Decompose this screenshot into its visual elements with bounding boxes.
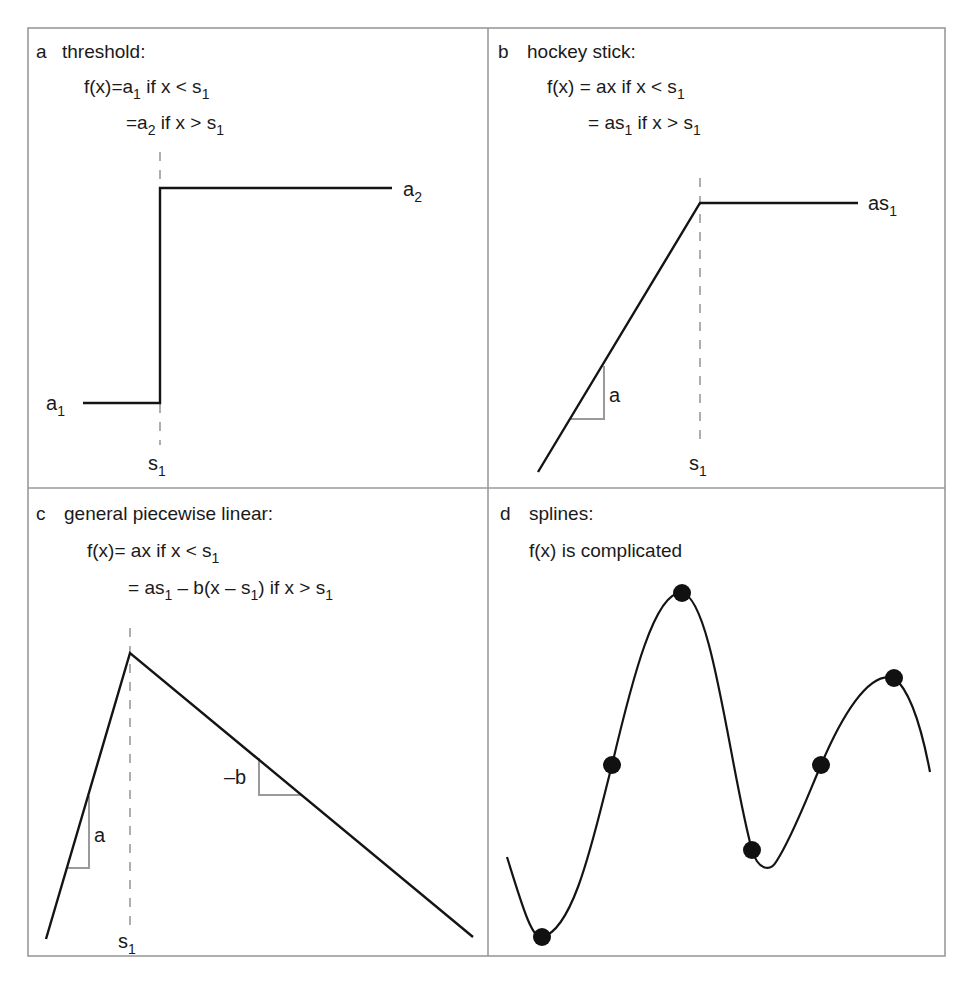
panel-b-label-as1: as1 [868,192,897,219]
panel-b-label-s1: s1 [689,452,707,479]
panel-c-title: general piecewise linear: [64,503,273,524]
panel-d-knot-points [533,584,903,946]
panel-b-hockey-stick: b hockey stick: f(x) = ax if x < s1 = as… [498,41,897,479]
panel-a-threshold: a threshold: f(x)=a1 if x < s1 =a2 if x … [36,41,422,479]
spline-knot-point [673,584,691,602]
panel-b-hockey-stick-line [538,203,858,472]
panel-c-letter: c [36,503,46,524]
spline-knot-point [603,756,621,774]
spline-knot-point [533,928,551,946]
panel-b-letter: b [498,41,509,62]
panel-c-label-slope-b: –b [224,766,246,788]
panel-a-title: threshold: [62,41,145,62]
functional-forms-figure: a threshold: f(x)=a1 if x < s1 =a2 if x … [0,0,973,983]
panel-d-letter: d [500,503,511,524]
panel-b-label-slope-a: a [609,384,621,406]
panel-b-equation-2: = as1 if x > s1 [588,112,701,138]
panel-d-equation: f(x) is complicated [529,540,682,561]
panel-d-splines: d splines: f(x) is complicated [500,503,930,946]
panel-c-equation-2: = as1 – b(x – s1) if x > s1 [128,577,333,603]
figure-frame [28,28,945,956]
spline-knot-point [743,841,761,859]
panel-c-equation-1: f(x)= ax if x < s1 [87,540,220,566]
panel-a-label-a2: a2 [403,178,422,205]
spline-knot-point [885,669,903,687]
panel-a-step-function [83,188,392,403]
panel-c-label-slope-a: a [94,824,106,846]
panel-a-equation-2: =a2 if x > s1 [126,112,224,138]
panel-a-label-s1: s1 [148,452,166,479]
panel-d-spline-curve [507,593,930,937]
panel-b-title: hockey stick: [527,41,636,62]
spline-knot-point [812,756,830,774]
panel-c-piecewise-linear: c general piecewise linear: f(x)= ax if … [36,503,473,957]
panel-d-title: splines: [529,503,593,524]
panel-b-equation-1: f(x) = ax if x < s1 [547,76,685,102]
panel-a-equation-1: f(x)=a1 if x < s1 [84,76,210,102]
panel-c-label-s1: s1 [118,930,136,957]
panel-a-label-a1: a1 [46,392,65,419]
panel-a-letter: a [36,41,47,62]
